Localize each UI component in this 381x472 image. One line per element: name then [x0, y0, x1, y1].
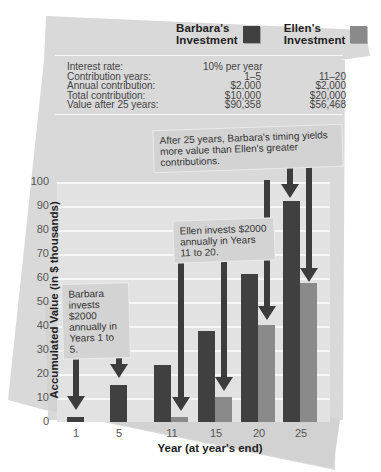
xtick-5: 5	[104, 427, 134, 439]
bar-barbara-year-20	[241, 274, 258, 422]
divider-bottom	[55, 114, 343, 115]
callout-barbara: Barbara invests $2000 annually in Years …	[62, 283, 130, 359]
bar-barbara-year-25	[283, 201, 300, 422]
legend-label-barbara-line1: Barbara's	[176, 22, 238, 34]
ytick-100: 100	[19, 175, 49, 187]
bar-barbara-year-15	[198, 331, 215, 422]
legend-swatch-ellen	[350, 26, 367, 43]
y-axis-label: Accumulated Value (in $ thousands)	[48, 190, 60, 410]
ytick-40: 40	[19, 319, 49, 331]
legend-label-ellen-line2: Investment	[284, 34, 346, 46]
bar-ellen-year-20	[258, 325, 275, 422]
bar-barbara-year-11	[154, 365, 171, 422]
xtick-1: 1	[61, 427, 91, 439]
xtick-15: 15	[201, 427, 231, 439]
bar-ellen-year-25	[300, 283, 317, 422]
chart-legend: Barbara's Investment Ellen's Investment	[176, 22, 367, 46]
bar-barbara-year-5	[110, 385, 127, 422]
info-table: Interest rate: 10% per year Contribution…	[67, 62, 346, 110]
bar-barbara-year-1	[67, 417, 84, 422]
bar-ellen-year-15	[215, 397, 232, 422]
callout-summary: After 25 years, Barbara's timing yields …	[153, 125, 342, 173]
ytick-10: 10	[19, 391, 49, 403]
info-row-value: Value after 25 years: $90,358 $56,468	[67, 100, 346, 110]
xtick-25: 25	[286, 427, 316, 439]
ytick-50: 50	[19, 295, 49, 307]
ytick-0: 0	[19, 415, 49, 427]
legend-item-barbara: Barbara's Investment	[176, 22, 260, 46]
callout-ellen: Ellen invests $2000 annually in Years 11…	[173, 218, 274, 262]
legend-label-ellen-line1: Ellen's	[284, 22, 346, 34]
ytick-30: 30	[19, 343, 49, 355]
xtick-11: 11	[157, 427, 187, 439]
ytick-70: 70	[19, 247, 49, 259]
bar-ellen-year-11	[171, 417, 188, 422]
divider-top	[55, 55, 343, 56]
xtick-20: 20	[244, 427, 274, 439]
ytick-90: 90	[19, 199, 49, 211]
ytick-80: 80	[19, 223, 49, 235]
legend-swatch-barbara	[243, 26, 260, 43]
ytick-60: 60	[19, 271, 49, 283]
legend-item-ellen: Ellen's Investment	[284, 22, 368, 46]
legend-label-barbara-line2: Investment	[176, 34, 238, 46]
ytick-20: 20	[19, 367, 49, 379]
x-axis-label: Year (at year's end)	[110, 442, 310, 454]
